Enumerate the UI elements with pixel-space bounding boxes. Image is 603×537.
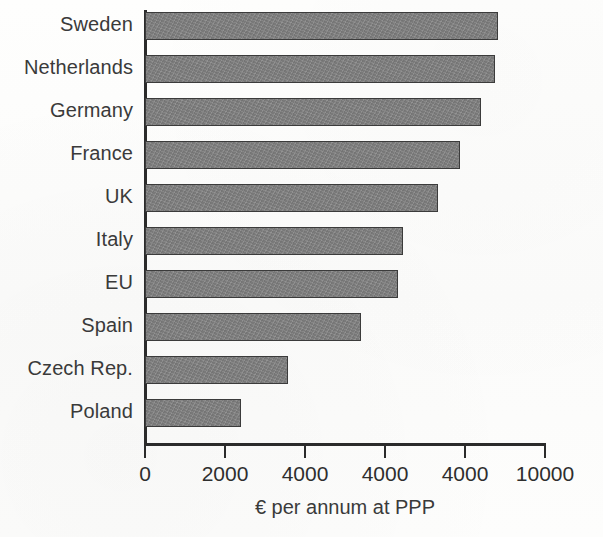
bar-france	[145, 141, 460, 169]
category-label: Sweden	[0, 13, 139, 36]
bar-czech-rep	[145, 356, 288, 384]
bar-eu	[145, 270, 398, 298]
category-label: Czech Rep.	[0, 357, 139, 380]
x-tick-mark	[544, 446, 546, 458]
category-label: UK	[0, 185, 139, 208]
x-tick-mark	[144, 446, 146, 458]
chart-figure: SwedenNetherlandsGermanyFranceUKItalyEUS…	[0, 0, 603, 537]
bar-spain	[145, 313, 361, 341]
category-axis-labels: SwedenNetherlandsGermanyFranceUKItalyEUS…	[0, 0, 139, 440]
category-label: Spain	[0, 314, 139, 337]
bar-netherlands	[145, 55, 495, 83]
x-axis-line	[144, 443, 546, 446]
bar-poland	[145, 399, 241, 427]
x-tick-label: 4000	[362, 462, 409, 486]
category-label: Germany	[0, 99, 139, 122]
category-label: EU	[0, 271, 139, 294]
x-tick-label: 10000	[516, 462, 574, 486]
x-tick-label: 4000	[282, 462, 329, 486]
x-tick-label: 2000	[202, 462, 249, 486]
x-tick-label: 0	[139, 462, 151, 486]
category-label: Italy	[0, 228, 139, 251]
bar-italy	[145, 227, 403, 255]
category-label: France	[0, 142, 139, 165]
bar-germany	[145, 98, 481, 126]
x-tick-mark	[224, 446, 226, 458]
x-axis-title: € per annum at PPP	[144, 496, 546, 519]
x-tick-mark	[304, 446, 306, 458]
bar-uk	[145, 184, 438, 212]
x-tick-mark	[464, 446, 466, 458]
bar-sweden	[145, 12, 498, 40]
category-label: Poland	[0, 400, 139, 423]
x-tick-label: 4000	[442, 462, 489, 486]
x-tick-mark	[384, 446, 386, 458]
category-label: Netherlands	[0, 56, 139, 79]
